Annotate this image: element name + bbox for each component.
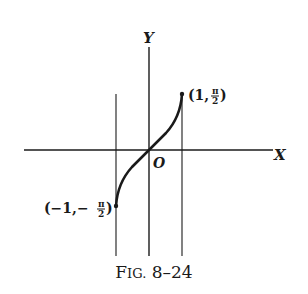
endpoint-top [180,92,184,96]
y-axis-label: Y [143,29,155,47]
caption-prefix-small: IG. [127,266,146,281]
x-axis-label: X [273,146,287,164]
svg-text:π: π [212,86,219,96]
point-label-bottom: (−1,− π 2 ) [44,199,113,219]
svg-text:(1,: (1, [188,87,209,103]
caption-number: 8–24 [152,262,193,282]
endpoint-bottom [114,204,118,208]
svg-text:): ) [220,87,227,103]
origin-label: O [153,155,166,171]
caption-prefix-big: F [115,262,127,282]
figure-canvas: Y X O (1, π 2 ) (−1,− π 2 ) [0,0,308,294]
svg-text:): ) [106,200,113,216]
figure-caption: FIG. 8–24 [0,262,308,282]
point-label-top: (1, π 2 ) [188,86,227,106]
svg-text:2: 2 [212,96,218,106]
svg-text:2: 2 [98,209,104,219]
svg-text:(−1,−: (−1,− [44,200,89,216]
svg-text:π: π [98,199,105,209]
